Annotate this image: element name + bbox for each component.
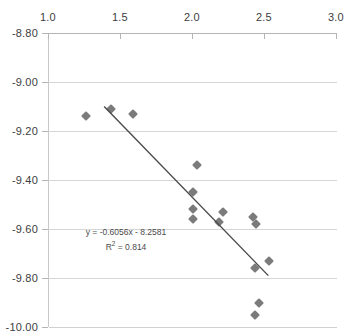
y-axis-tick-label: -9.80 (12, 272, 38, 284)
gridline (49, 131, 337, 132)
data-point (188, 204, 198, 214)
data-point (81, 111, 91, 121)
r-squared-value: = 0.814 (115, 242, 146, 252)
x-axis-tick-label: 1.5 (112, 11, 128, 23)
plot-area (48, 33, 336, 327)
y-axis-tick-label: -9.00 (12, 76, 38, 88)
regression-equation: y = -0.6056x - 8.2581 (86, 227, 167, 237)
data-point (218, 207, 228, 217)
data-point (106, 104, 116, 114)
x-axis-tick (48, 33, 49, 39)
data-point (250, 310, 260, 320)
x-axis-tick-label: 1.0 (40, 11, 56, 23)
y-axis-tick-label: -10.00 (6, 321, 38, 333)
x-axis-tick (192, 33, 193, 39)
data-point (188, 187, 198, 197)
data-point (250, 263, 260, 273)
data-point (128, 109, 138, 119)
gridline (49, 180, 337, 181)
regression-annotation: y = -0.6056x - 8.2581 R2 = 0.814 (70, 226, 182, 253)
gridline (49, 278, 337, 279)
gridline (49, 82, 337, 83)
y-axis-tick-label: -8.80 (12, 27, 38, 39)
y-axis-tick-label: -9.60 (12, 223, 38, 235)
x-axis-tick (336, 33, 337, 39)
data-point (254, 298, 264, 308)
gridline (49, 327, 337, 328)
x-axis-tick-label: 2.0 (184, 11, 200, 23)
data-point (192, 160, 202, 170)
data-point (264, 256, 274, 266)
x-axis-tick-label: 2.5 (256, 11, 272, 23)
y-axis-tick-label: -9.20 (12, 125, 38, 137)
y-axis-tick-label: -9.40 (12, 174, 38, 186)
x-axis-tick (120, 33, 121, 39)
data-point (188, 214, 198, 224)
x-axis-tick (264, 33, 265, 39)
regression-r-squared: R2 = 0.814 (70, 238, 182, 253)
x-axis-tick-label: 3.0 (328, 11, 344, 23)
data-point (214, 217, 224, 227)
data-point (251, 219, 261, 229)
y-axis-tick (42, 327, 48, 328)
